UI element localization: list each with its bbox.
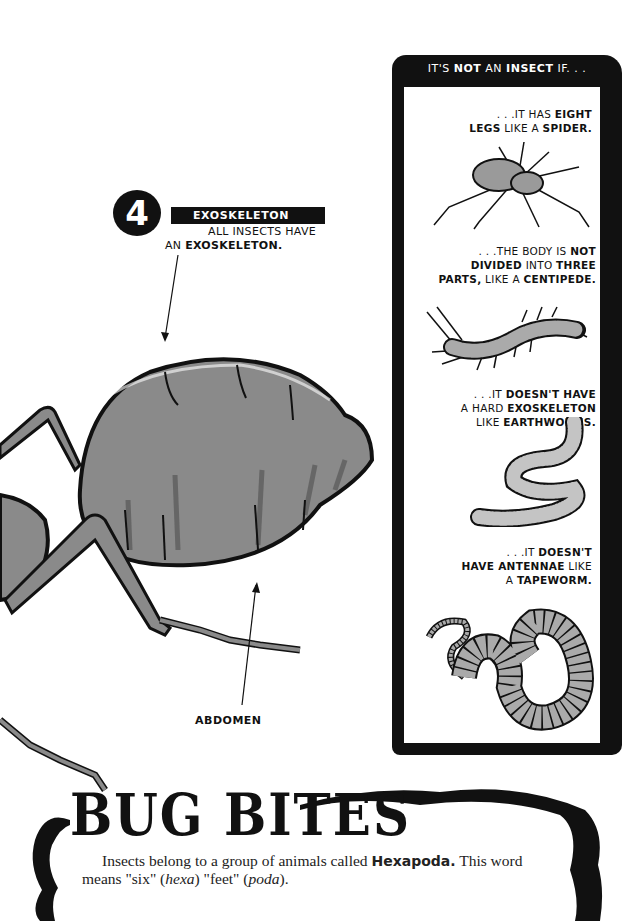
caption-bold: PARTS, [438,273,481,285]
caption-line: . . .IT HAS EIGHT [444,107,592,121]
description-text: AN [165,239,185,252]
ant-abdomen-illustration [0,0,400,800]
caption-line: PARTS, LIKE A CENTIPEDE. [404,272,596,286]
panel-content: . . .IT HAS EIGHTLEGS LIKE A SPIDER. . .… [404,87,600,743]
tapeworm-icon [419,607,599,732]
bug-bites-text: Insects belong to a group of animals cal… [82,852,562,888]
caption-bold: CENTIPEDE. [524,273,596,285]
tapeworm-caption: . . .IT DOESN'THAVE ANTENNAE LIKEA TAPEW… [414,545,592,587]
caption-bold: LEGS [469,122,500,134]
italic-term: poda [249,870,280,887]
caption-bold: NOT [570,245,596,257]
caption-line: DIVIDED INTO THREE [404,258,596,272]
caption-text: . . .IT [474,388,506,400]
caption-bold: DOESN'T [538,546,592,558]
caption-bold: DIVIDED [471,259,522,271]
exoskeleton-label: EXOSKELETON [171,207,325,224]
bug-bites-title: BUG BITES [70,781,411,849]
caption-bold: EIGHT [555,108,592,120]
text: Insects belong to a group of animals cal… [82,852,371,869]
caption-bold: HAVE ANTENNAE [462,560,565,572]
caption-text: LIKE A [481,273,523,285]
title-part: NOT [454,62,482,75]
caption-line: . . .IT DOESN'T HAVE [404,387,596,401]
caption-text: INTO [522,259,556,271]
title-part: IF. . . [553,62,586,75]
caption-bold: EXOSKELETON [507,402,596,414]
panel-title: IT'S NOT AN INSECT IF. . . [392,62,622,75]
centipede-caption: . . .THE BODY IS NOTDIVIDED INTO THREEPA… [404,244,596,286]
bold-term: Hexapoda. [371,853,455,869]
abdomen-label: ABDOMEN [195,714,262,727]
description-line: AN EXOSKELETON. [160,239,330,253]
caption-text: . . .IT [506,546,538,558]
caption-bold: TAPEWORM. [517,574,592,586]
title-part: AN [481,62,506,75]
caption-text: . . .IT HAS [497,108,555,120]
caption-bold: THREE [556,259,596,271]
spider-caption: . . .IT HAS EIGHTLEGS LIKE A SPIDER. [444,107,592,135]
earthworm-icon [464,417,594,527]
exoskeleton-description: ALL INSECTS HAVE AN EXOSKELETON. [160,225,330,253]
caption-text: . . .THE BODY IS [479,245,571,257]
text: ). [280,870,289,887]
caption-line: . . .IT DOESN'T [414,545,592,559]
caption-text: LIKE A [501,122,543,134]
title-part: IT'S [428,62,454,75]
spider-icon [429,137,594,232]
caption-line: A HARD EXOSKELETON [404,401,596,415]
caption-bold: DOESN'T HAVE [506,388,596,400]
caption-text: LIKE [565,560,592,572]
title-part: INSECT [506,62,553,75]
caption-line: HAVE ANTENNAE LIKE [414,559,592,573]
caption-text: A [506,574,517,586]
text: ) "feet" ( [195,870,249,887]
description-bold: EXOSKELETON. [185,239,282,252]
caption-bold: SPIDER. [543,122,592,134]
centipede-icon [422,302,592,372]
italic-term: hexa [165,870,194,887]
step-number-badge: 4 [113,190,161,236]
caption-text: A HARD [461,402,507,414]
caption-line: A TAPEWORM. [414,573,592,587]
caption-line: . . .THE BODY IS NOT [404,244,596,258]
not-an-insect-panel: IT'S NOT AN INSECT IF. . . . . .IT HAS E… [392,55,622,755]
caption-line: LEGS LIKE A SPIDER. [444,121,592,135]
description-line: ALL INSECTS HAVE [160,225,330,239]
